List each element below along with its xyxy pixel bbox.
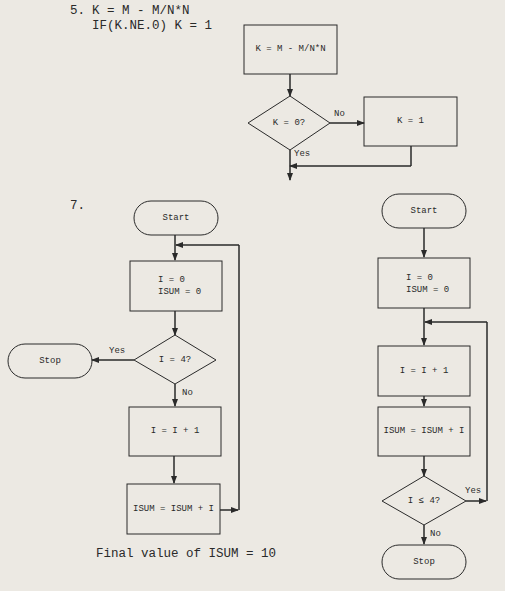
p7l-accumulate-text: ISUM = ISUM + I [127, 503, 220, 515]
p7l-no-label: No [182, 387, 193, 399]
p7l-stop-text: Stop [8, 355, 92, 367]
p7l-yes-label: Yes [109, 345, 125, 357]
final-value-text: Final value of ISUM = 10 [96, 547, 276, 562]
p7l-init-line1: I = 0 [158, 274, 185, 286]
problem-5-code-line1: K = M - M/N*N [92, 4, 190, 19]
p7r-yes-label: Yes [465, 485, 481, 497]
p5-decision-text: K = 0? [248, 117, 330, 129]
p7l-start-text: Start [134, 212, 218, 224]
problem-7-number: 7. [70, 199, 85, 214]
p5-yes-label: Yes [294, 148, 310, 160]
p7r-init-line1: I = 0 [406, 272, 433, 284]
p7l-decision-text: I = 4? [134, 354, 216, 366]
p7r-start-text: Start [382, 205, 466, 217]
p5-process2-text: K = 1 [364, 115, 457, 127]
p7r-increment-text: I = I + 1 [378, 365, 470, 377]
p7r-decision-text: I ≤ 4? [382, 495, 466, 507]
p7r-stop-text: Stop [382, 556, 466, 568]
p7r-no-label: No [430, 528, 441, 540]
p7r-init-line2: ISUM = 0 [406, 284, 449, 296]
problem-5-code-line2: IF(K.NE.0) K = 1 [92, 19, 212, 34]
problem-5-number: 5. [70, 4, 85, 19]
p5-process1-text: K = M - M/N*N [244, 43, 337, 55]
p7l-increment-text: I = I + 1 [129, 425, 221, 437]
p7l-init-line2: ISUM = 0 [158, 286, 201, 298]
p7r-accumulate-text: ISUM = ISUM + I [378, 425, 470, 437]
p5-no-label: No [334, 108, 345, 120]
